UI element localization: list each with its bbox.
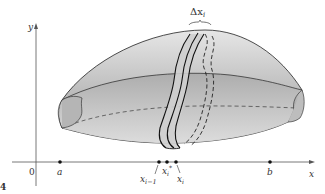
- point-b: [268, 160, 272, 164]
- x-axis-label: x: [309, 169, 314, 179]
- solid-of-revolution-diagram: y Δxi: [0, 0, 325, 194]
- point-x-i: [174, 160, 178, 164]
- y-axis-label: y: [27, 22, 34, 32]
- origin-label: 0: [29, 167, 35, 177]
- slice-width-annotation: Δxi: [189, 6, 211, 25]
- figure-marker: 4: [0, 182, 6, 192]
- point-a: [58, 160, 62, 164]
- axis-points: a xi−1 xi* xi b: [57, 160, 273, 186]
- label-b: b: [267, 167, 273, 177]
- delta-x-label: Δxi: [190, 6, 205, 19]
- label-x-i: xi: [177, 174, 184, 185]
- label-x-i-star: xi*: [162, 164, 172, 177]
- y-axis: y: [27, 22, 38, 186]
- label-a: a: [57, 167, 62, 177]
- label-x-i-minus-1: xi−1: [140, 174, 157, 186]
- point-x-i-minus-1: [157, 160, 161, 164]
